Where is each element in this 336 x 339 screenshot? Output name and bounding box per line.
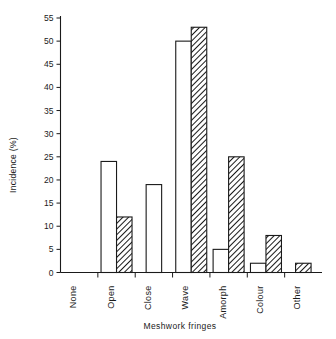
bars	[101, 27, 311, 272]
bar-white-wave	[176, 41, 192, 272]
x-category-label: Wave	[180, 286, 190, 310]
x-category-label: Colour	[255, 286, 265, 314]
bar-hatched-amorph	[229, 157, 245, 273]
y-tick-label: 40	[44, 82, 54, 92]
bar-white-colour	[250, 263, 266, 272]
bar-hatched-colour	[266, 235, 282, 272]
x-axis-ticks	[98, 273, 285, 278]
x-category-label: Open	[106, 286, 116, 309]
x-category-labels: NoneOpenCloseWaveAmorphColourOther	[68, 286, 302, 319]
y-tick-label: 10	[44, 221, 54, 231]
x-category-label: Close	[143, 286, 153, 311]
y-tick-label: 5	[49, 244, 54, 254]
y-tick-labels: 0510152025303540455055	[44, 13, 54, 278]
y-tick-label: 0	[49, 268, 54, 278]
y-tick-label: 55	[44, 13, 54, 23]
y-tick-label: 35	[44, 106, 54, 116]
bar-chart-figure: 0510152025303540455055 NoneOpenCloseWave…	[0, 0, 336, 339]
y-tick-label: 25	[44, 152, 54, 162]
y-tick-label: 45	[44, 59, 54, 69]
bar-white-amorph	[213, 249, 229, 272]
bar-hatched-open	[117, 217, 132, 273]
y-tick-label: 20	[44, 175, 54, 185]
bar-white-close	[146, 185, 162, 273]
y-axis-title: Incidence (%)	[8, 137, 18, 193]
bar-hatched-wave	[191, 27, 207, 272]
chart-canvas: 0510152025303540455055 NoneOpenCloseWave…	[0, 0, 336, 339]
y-tick-label: 15	[44, 198, 54, 208]
y-tick-label: 30	[44, 129, 54, 139]
bar-white-open	[101, 161, 117, 272]
y-axis-ticks	[57, 18, 61, 273]
x-category-label: Amorph	[218, 286, 228, 319]
bar-hatched-other	[296, 263, 312, 272]
x-category-label: Other	[292, 286, 302, 310]
x-axis-title: Meshwork fringes	[143, 321, 216, 331]
x-category-label: None	[68, 286, 78, 309]
y-tick-label: 50	[44, 36, 54, 46]
